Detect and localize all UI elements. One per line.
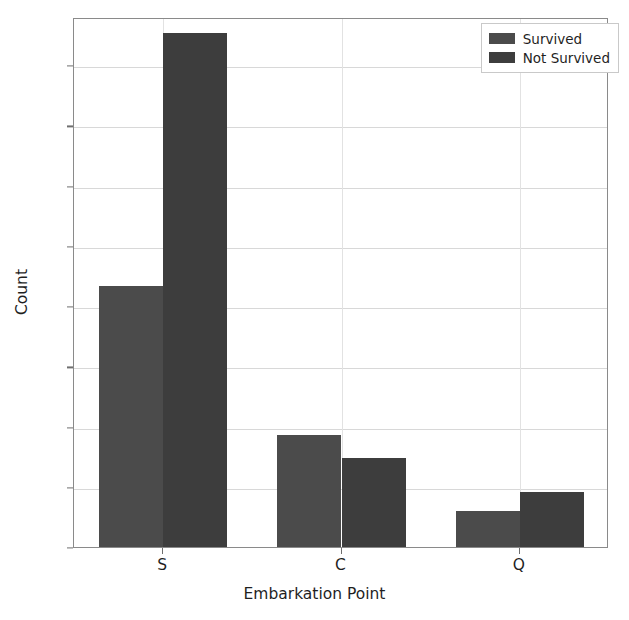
chart-legend: SurvivedNot Survived [481,23,619,73]
legend-item-not-survived: Not Survived [489,48,610,67]
y-axis-label: Count [13,269,31,315]
x-tick-label-S: S [132,556,192,574]
legend-label: Not Survived [523,50,610,66]
bar-S-not-survived [163,33,227,547]
gridline-horizontal [74,248,607,249]
plot-area [73,18,608,548]
legend-swatch-icon [489,52,515,63]
bar-C-not-survived [342,458,406,547]
gridline-horizontal [74,188,607,189]
gridline-vertical [520,19,521,547]
x-tick-mark [519,548,520,554]
x-tick-mark [341,548,342,554]
gridline-horizontal [74,127,607,128]
legend-label: Survived [523,31,582,47]
legend-swatch-icon [489,33,515,44]
bar-Q-not-survived [520,492,584,547]
x-axis-label: Embarkation Point [0,585,629,603]
bar-C-survived [277,435,341,547]
bar-S-survived [99,286,163,547]
x-tick-mark [162,548,163,554]
bar-chart-figure: Count 050100150200250300350400 SCQ Embar… [0,0,629,620]
bar-Q-survived [456,511,520,547]
x-tick-label-Q: Q [489,556,549,574]
x-tick-label-C: C [311,556,371,574]
legend-item-survived: Survived [489,29,610,48]
